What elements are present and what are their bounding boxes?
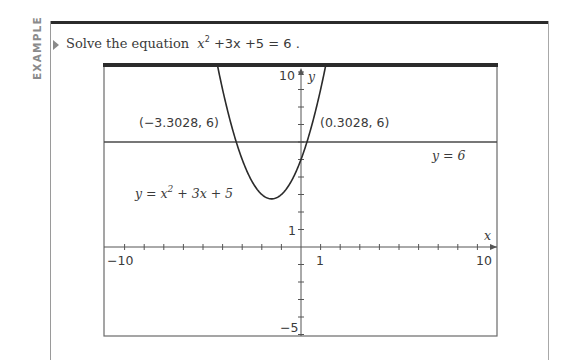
annotation-left-intersection: (−3.3028, 6) — [139, 115, 219, 130]
graph: (−3.3028, 6) (0.3028, 6) y = 6 y = x2 + … — [0, 0, 576, 360]
curve-label-main: y = x — [134, 186, 168, 201]
line-label-y6: y = 6 — [431, 148, 465, 163]
plot-area — [103, 0, 498, 336]
graph-labels: (−3.3028, 6) (0.3028, 6) y = 6 y = x2 + … — [107, 68, 492, 335]
curve-label: y = x2 + 3x + 5 — [134, 184, 233, 201]
parabola-curve — [203, 0, 340, 199]
y-tick-label-neg5: −5 — [280, 320, 298, 335]
curve-label-rest: + 3x + 5 — [173, 186, 233, 201]
graph-frame-top-rule — [103, 63, 498, 67]
x-axis-arrow-icon — [490, 244, 497, 250]
annotation-right-intersection: (0.3028, 6) — [320, 115, 389, 130]
y-tick-label-10: 10 — [279, 68, 295, 83]
y-tick-label-1: 1 — [288, 223, 296, 238]
x-axis-label: x — [484, 228, 491, 243]
x-tick-label-10: 10 — [476, 253, 492, 268]
x-tick-label-1: 1 — [316, 253, 324, 268]
x-tick-label-neg10: −10 — [107, 253, 133, 268]
y-axis-label: y — [307, 69, 316, 84]
